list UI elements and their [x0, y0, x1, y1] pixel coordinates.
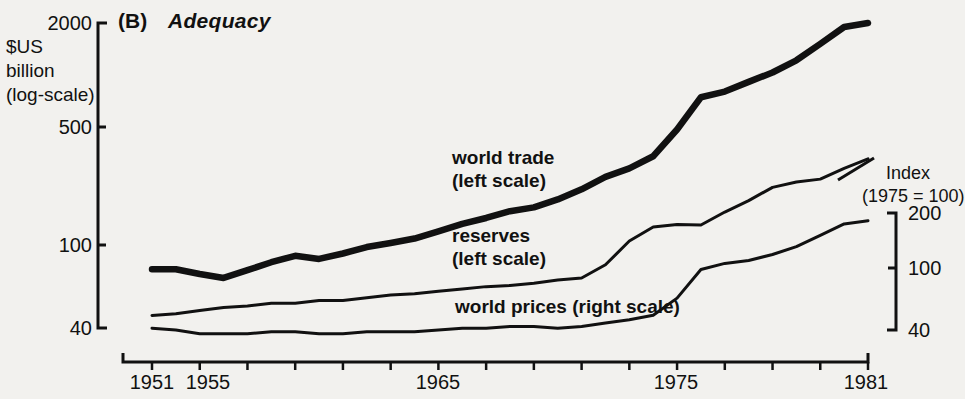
series-line-world-prices: [152, 221, 868, 334]
series-group: [152, 23, 868, 334]
x-axis-spine: [123, 353, 868, 362]
axes-group: [98, 23, 896, 370]
y2-axis-spine: [887, 213, 896, 330]
series-line-reserves: [152, 159, 868, 316]
series-line-world-trade: [152, 23, 868, 278]
y-axis-spine: [98, 23, 107, 328]
